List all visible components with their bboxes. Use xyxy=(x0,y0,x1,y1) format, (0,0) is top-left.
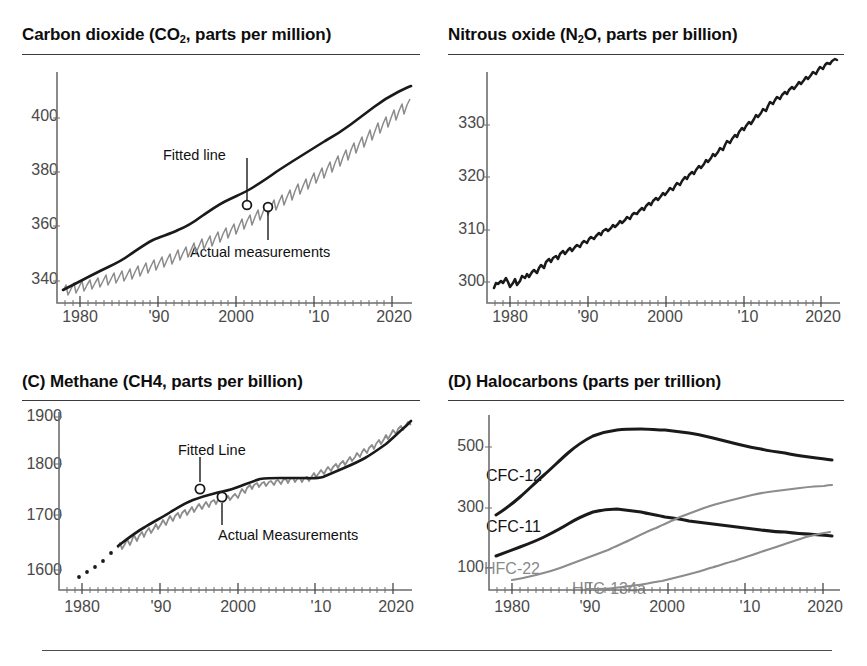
panel-b-plot-area xyxy=(440,0,867,330)
panel-d-plot-area xyxy=(440,405,867,625)
greenhouse-gas-figure: Carbon dioxide (CO2, parts per million) … xyxy=(0,0,867,666)
panel-c-plot-area xyxy=(0,405,440,625)
panel-c-title: (C) Methane (CH4, parts per billion) xyxy=(22,372,303,392)
panel-d-title-rule xyxy=(448,400,844,401)
panel-c-title-rule xyxy=(22,400,420,401)
figure-footer-rule xyxy=(42,650,832,651)
panel-a-plot-area xyxy=(0,0,440,330)
panel-d-title: (D) Halocarbons (parts per trillion) xyxy=(448,372,721,392)
